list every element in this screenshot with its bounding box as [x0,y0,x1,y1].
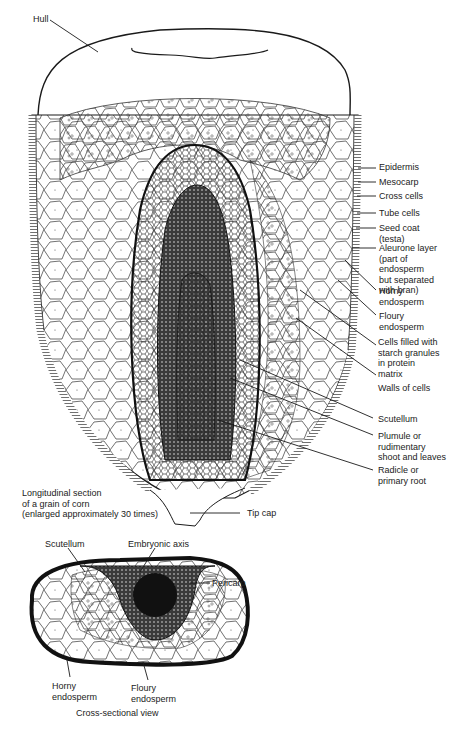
cross-label-scutellum: Scutellum [45,539,85,550]
label-plumule: Plumule or rudimentary shoot and leaves [378,431,446,463]
label-radicle: Radicle or primary root [378,465,426,486]
cross-embryonic-axis [133,573,177,617]
cross-label-horny-endosperm: Horny endosperm [52,681,97,702]
label-mesocarp: Mesocarp [379,177,419,188]
cross-label-floury-endosperm: Floury endosperm [131,683,176,704]
label-scutellum: Scutellum [378,414,418,425]
radicle-region [177,273,215,440]
kernel-longitudinal [32,99,358,527]
cross-label-pericarp: Pericarp [212,578,246,589]
label-horny-endosperm: Horny endosperm [379,286,424,307]
cross-section-title: Cross-sectional view [76,708,159,719]
label-tip-cap: Tip cap [247,508,276,519]
label-cross-cells: Cross cells [379,191,423,202]
label-epidermis: Epidermis [379,162,419,173]
kernel-cross-section [32,548,248,680]
longitudinal-section-title: Longitudinal section of a grain of corn … [22,488,158,520]
label-hull: Hull [33,14,49,25]
label-seed-coat: Seed coat (testa) [379,223,420,244]
label-cell-walls: Walls of cells [378,383,430,394]
label-starch-cells: Cells filled with starch granules in pro… [378,337,440,379]
cross-label-embryonic-axis: Embryonic axis [128,539,189,550]
label-tube-cells: Tube cells [379,208,420,219]
label-floury-endosperm: Floury endosperm [379,311,424,332]
